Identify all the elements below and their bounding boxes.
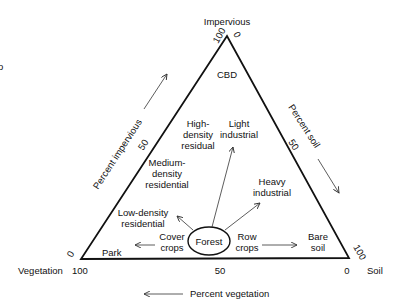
class-low-density-residential: Low-density residential: [118, 207, 169, 229]
vertex-label-impervious: Impervious: [204, 16, 251, 27]
tick-bottom-100: 100: [72, 265, 88, 276]
svg-text:High-: High-: [187, 118, 210, 129]
tick-left-50: 50: [135, 137, 150, 152]
arrow-percent-soil: [318, 159, 339, 193]
arrow-forest-to-heavy-industrial: [225, 203, 260, 230]
tick-bottom-0: 0: [344, 265, 349, 276]
svg-text:Bare: Bare: [308, 231, 328, 242]
axis-label-percent-impervious: Percent impervious: [90, 117, 144, 191]
tick-left-0: 0: [64, 249, 76, 259]
svg-text:residual: residual: [181, 140, 214, 151]
svg-text:Medium-: Medium-: [149, 157, 186, 168]
tick-right-100: 100: [351, 243, 368, 262]
class-medium-density-residential: Medium- density residential: [145, 157, 188, 190]
class-cover-crops: Cover crops: [159, 231, 184, 253]
svg-text:soil: soil: [311, 242, 325, 253]
tick-bottom-50: 50: [215, 265, 226, 276]
class-row-crops: Row crops: [235, 231, 258, 253]
svg-text:crops: crops: [160, 242, 183, 253]
svg-text:Heavy: Heavy: [259, 176, 286, 187]
svg-text:Light: Light: [229, 118, 250, 129]
stray-mark: o: [0, 61, 3, 72]
svg-text:industrial: industrial: [220, 129, 258, 140]
tick-top-0: 0: [231, 30, 243, 40]
arrow-forest-to-low-density: [177, 216, 193, 230]
svg-text:residential: residential: [145, 179, 188, 190]
arrow-forest-to-light-industrial: [212, 147, 233, 227]
svg-text:density: density: [183, 129, 213, 140]
vertex-label-vegetation: Vegetation: [18, 265, 63, 276]
svg-text:Cover: Cover: [159, 231, 184, 242]
class-heavy-industrial: Heavy industrial: [253, 176, 291, 198]
svg-text:density: density: [152, 168, 182, 179]
svg-text:Low-density: Low-density: [118, 207, 169, 218]
vertex-label-soil: Soil: [367, 265, 383, 276]
class-park: Park: [102, 247, 122, 258]
svg-text:residential: residential: [121, 218, 164, 229]
svg-text:crops: crops: [235, 242, 258, 253]
svg-text:Row: Row: [237, 231, 256, 242]
class-bare-soil: Bare soil: [308, 231, 328, 253]
class-high-density-residual: High- density residual: [181, 118, 214, 151]
svg-text:industrial: industrial: [253, 187, 291, 198]
class-forest: Forest: [196, 236, 223, 247]
arrow-percent-impervious: [144, 74, 167, 109]
tick-top-100: 100: [210, 26, 227, 45]
axis-label-percent-vegetation: Percent vegetation: [190, 288, 269, 299]
class-cbd: CBD: [217, 69, 237, 80]
class-light-industrial: Light industrial: [220, 118, 258, 140]
ternary-diagram: o Impervious 100 0 0 Vegetation 100 100 …: [0, 0, 397, 307]
